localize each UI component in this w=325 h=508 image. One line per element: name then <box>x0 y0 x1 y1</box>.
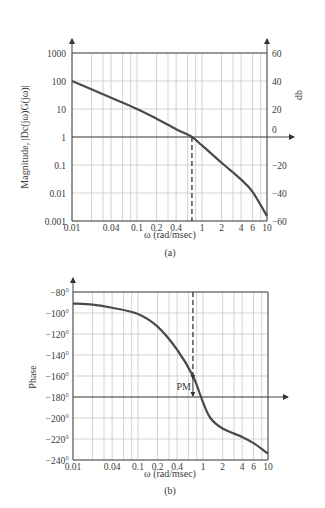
svg-text:1: 1 <box>200 223 205 233</box>
svg-text:−80°: −80° <box>50 288 69 298</box>
svg-text:0.04: 0.04 <box>103 223 120 233</box>
phase-curve <box>73 304 268 454</box>
svg-text:1: 1 <box>61 133 66 143</box>
svg-text:10: 10 <box>263 462 273 472</box>
panel-b-caption: (b) <box>164 485 176 497</box>
svg-text:2: 2 <box>219 223 224 233</box>
phase-tick-labels: −80°−100°−120°−140°−160°−180°−200°−220°−… <box>46 288 273 473</box>
bode-plot-figure: 10001001010.10.010.0016040200−20−40−600.… <box>0 0 325 508</box>
svg-text:1000: 1000 <box>47 49 66 59</box>
svg-text:0.01: 0.01 <box>65 462 82 472</box>
svg-text:60: 60 <box>272 49 282 59</box>
phase-y-axis-label: Phase <box>27 365 38 389</box>
svg-text:−20: −20 <box>272 161 287 171</box>
phase-plot: −80°−100°−120°−140°−160°−180°−200°−220°−… <box>27 278 288 497</box>
magnitude-y-axis-label: Magnitude, |Dc(jω)G(jω)| <box>19 85 31 188</box>
svg-text:4: 4 <box>240 462 245 472</box>
svg-text:−100°: −100° <box>46 309 70 319</box>
svg-text:−140°: −140° <box>46 351 70 361</box>
svg-text:0.01: 0.01 <box>49 189 66 199</box>
phase-margin-label: PM <box>176 381 191 392</box>
svg-text:−40: −40 <box>272 189 287 199</box>
svg-text:2: 2 <box>220 462 225 472</box>
svg-text:4: 4 <box>239 223 244 233</box>
magnitude-tick-labels: 10001001010.10.010.0016040200−20−40−600.… <box>45 49 287 234</box>
svg-text:6: 6 <box>251 462 256 472</box>
magnitude-x-axis-label: ω (rad/msec) <box>144 229 196 241</box>
magnitude-curve <box>72 81 267 216</box>
svg-text:0.1: 0.1 <box>54 161 66 171</box>
phase-x-axis-label: ω (rad/msec) <box>144 468 196 480</box>
svg-text:10: 10 <box>57 105 67 115</box>
svg-text:10: 10 <box>262 223 272 233</box>
svg-text:100: 100 <box>52 77 67 87</box>
svg-text:−200°: −200° <box>46 414 70 424</box>
svg-text:−160°: −160° <box>46 372 70 382</box>
svg-text:−180°: −180° <box>46 393 70 403</box>
svg-text:0.04: 0.04 <box>104 462 121 472</box>
svg-text:20: 20 <box>272 105 282 115</box>
svg-text:−120°: −120° <box>46 330 70 340</box>
phase-axes <box>73 278 288 460</box>
svg-text:6: 6 <box>250 223 255 233</box>
svg-text:1: 1 <box>201 462 206 472</box>
svg-text:0: 0 <box>272 125 277 135</box>
svg-text:−60: −60 <box>272 217 287 227</box>
svg-text:−220°: −220° <box>46 435 70 445</box>
panel-a-caption: (a) <box>164 247 175 259</box>
svg-text:0.01: 0.01 <box>64 223 81 233</box>
svg-text:0.1: 0.1 <box>132 462 144 472</box>
magnitude-plot: 10001001010.10.010.0016040200−20−40−600.… <box>19 39 304 259</box>
svg-text:40: 40 <box>272 77 282 87</box>
svg-text:0.1: 0.1 <box>131 223 143 233</box>
db-axis-label: db <box>293 90 304 100</box>
